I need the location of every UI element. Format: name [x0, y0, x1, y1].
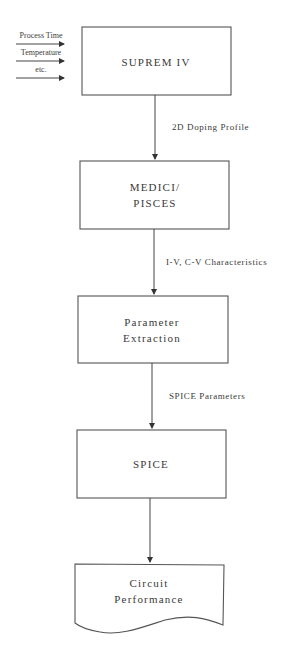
node-label: Circuit	[130, 577, 169, 589]
node-label: Parameter	[124, 316, 179, 328]
input-label-etc: etc.	[35, 65, 46, 74]
node-suprem-iv: SUPREM IV	[82, 27, 231, 95]
node-parameter-extraction: Parameter Extraction	[78, 296, 228, 363]
node-label: Performance	[114, 593, 183, 605]
node-label: SPICE	[133, 458, 169, 470]
node-circuit-performance: Circuit Performance	[75, 564, 224, 633]
node-label: PISCES	[133, 197, 176, 209]
edge-label-doping-profile: 2D Doping Profile	[172, 122, 249, 132]
input-label-temperature: Temperature	[21, 48, 62, 57]
edge-label-iv-cv: I-V, C-V Characteristics	[166, 257, 267, 267]
edge-label-spice-parameters: SPICE Parameters	[169, 391, 245, 401]
input-label-process-time: Process Time	[20, 31, 63, 40]
node-label: MEDICI/	[130, 181, 181, 193]
node-label: Extraction	[123, 332, 181, 344]
input-arrows: Process Time Temperature etc.	[16, 31, 64, 78]
node-medici-pisces: MEDICI/ PISCES	[80, 161, 229, 229]
node-spice: SPICE	[77, 430, 226, 498]
node-label: SUPREM IV	[121, 56, 190, 68]
flow-diagram: Process Time Temperature etc. SUPREM IV …	[0, 0, 285, 653]
